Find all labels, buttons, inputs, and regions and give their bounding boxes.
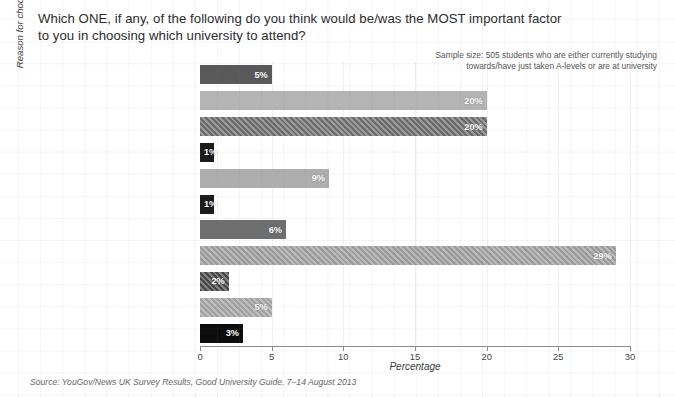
page-title: Which ONE, if any, of the following do y… — [38, 10, 568, 44]
bar-row: 3% — [200, 324, 630, 343]
gridline — [630, 62, 631, 346]
bar-value-label: 3% — [226, 328, 239, 338]
bar-row: 6% — [200, 220, 630, 239]
bar-row: 29% — [200, 246, 630, 265]
bar-value-label: 20% — [464, 96, 482, 106]
bar-value-label: 1% — [204, 199, 217, 209]
x-axis-tick-label: 10 — [328, 351, 358, 362]
bar[interactable]: 5% — [200, 65, 272, 84]
bar[interactable]: 3% — [200, 324, 243, 343]
bar-value-label: 2% — [211, 276, 224, 286]
bar-row: 5% — [200, 298, 630, 317]
bar-value-label: 6% — [269, 225, 282, 235]
bar[interactable]: 9% — [200, 169, 329, 188]
bar[interactable]: 20% — [200, 91, 487, 110]
bar[interactable]: 1% — [200, 143, 214, 162]
x-axis-tick-label: 30 — [615, 351, 645, 362]
source-note: Source: YouGov/News UK Survey Results, G… — [30, 377, 356, 387]
bar[interactable]: 1% — [200, 195, 214, 214]
plot-area: Student satisfaction ratings5%Graduate p… — [200, 62, 630, 346]
bar-value-label: 9% — [312, 173, 325, 183]
x-axis-title: Percentage — [200, 361, 630, 372]
x-axis-tick-label: 25 — [543, 351, 573, 362]
bar[interactable]: 2% — [200, 272, 229, 291]
bar-row: 20% — [200, 117, 630, 136]
bar-value-label: 29% — [593, 251, 611, 261]
bar-row: 2% — [200, 272, 630, 291]
x-axis-tick-label: 0 — [185, 351, 215, 362]
bar-chart: Which ONE, if any, of the following do y… — [0, 0, 675, 398]
bar-row: 20% — [200, 91, 630, 110]
x-axis-tick-label: 15 — [400, 351, 430, 362]
bar-value-label: 20% — [464, 122, 482, 132]
bar[interactable]: 20% — [200, 117, 487, 136]
bar[interactable]: 6% — [200, 220, 286, 239]
bar[interactable]: 5% — [200, 298, 272, 317]
bar-row: 1% — [200, 195, 630, 214]
bar-row: 9% — [200, 169, 630, 188]
bar-value-label: 1% — [204, 147, 217, 157]
bar-value-label: 5% — [254, 70, 267, 80]
bar-row: 5% — [200, 65, 630, 84]
x-axis-tick-label: 5 — [257, 351, 287, 362]
bar-row: 1% — [200, 143, 630, 162]
y-axis-title: Reason for choosing which university to … — [14, 0, 28, 94]
x-axis-tick-label: 20 — [472, 351, 502, 362]
bar-value-label: 5% — [254, 302, 267, 312]
bar[interactable]: 29% — [200, 246, 616, 265]
